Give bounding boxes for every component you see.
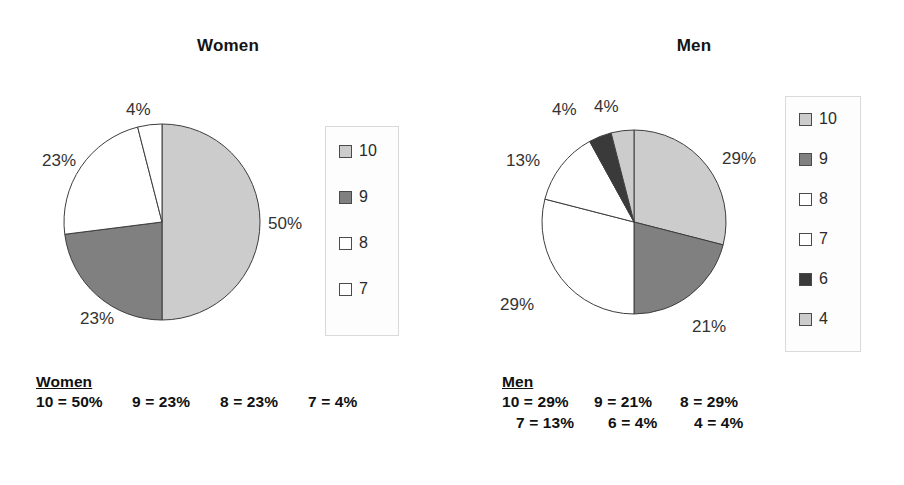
- women-legend-swatch-7: [339, 283, 352, 296]
- men-percent-label-3: 13%: [506, 152, 540, 169]
- women-percent-label-2: 23%: [42, 152, 76, 169]
- men-percent-label-0: 29%: [722, 150, 756, 167]
- women-legend-item-7[interactable]: 7: [339, 281, 398, 297]
- men-pie-chart: [540, 128, 728, 316]
- men-legend-swatch-9: [799, 153, 812, 166]
- men-percent-label-4: 4%: [552, 101, 577, 118]
- men-legend-swatch-4: [799, 313, 812, 326]
- men-legend-item-8[interactable]: 8: [799, 191, 860, 207]
- men-legend-item-7[interactable]: 7: [799, 231, 860, 247]
- men-caption-r2-entry-2: 4 = 4%: [694, 413, 780, 433]
- men-chart-title: Men: [468, 36, 904, 56]
- men-caption-r2-entry-0: 7 = 13%: [516, 413, 608, 433]
- men-legend-label-8: 8: [819, 191, 828, 207]
- men-caption: Men 10 = 29%9 = 21%8 = 29% 7 = 13%6 = 4%…: [502, 372, 780, 433]
- men-legend-item-4[interactable]: 4: [799, 311, 860, 327]
- women-percent-label-3: 4%: [126, 101, 151, 118]
- women-legend-item-10[interactable]: 10: [339, 143, 398, 159]
- men-legend-item-6[interactable]: 6: [799, 271, 860, 287]
- men-caption-r1-entry-2: 8 = 29%: [680, 392, 766, 412]
- women-percent-label-0: 50%: [268, 215, 302, 232]
- men-legend-item-9[interactable]: 9: [799, 151, 860, 167]
- men-percent-label-1: 21%: [692, 318, 726, 335]
- men-legend-label-4: 4: [819, 311, 828, 327]
- women-legend: 10987: [325, 126, 399, 336]
- men-percent-label-5: 4%: [594, 98, 619, 115]
- men-legend-label-10: 10: [819, 111, 837, 127]
- women-legend-item-8[interactable]: 8: [339, 235, 398, 251]
- men-caption-values-row-1: 10 = 29%9 = 21%8 = 29%: [502, 392, 780, 412]
- women-caption-heading: Women: [36, 372, 378, 392]
- men-percent-label-2: 29%: [500, 296, 534, 313]
- women-caption-entry-0: 10 = 50%: [36, 392, 132, 412]
- women-chart-panel: Women 50%23%23%4% 10987 Women 10 = 50%9 …: [0, 0, 452, 485]
- women-legend-swatch-8: [339, 237, 352, 250]
- men-chart-panel: Men 29%21%29%13%4%4% 1098764 Men 10 = 29…: [452, 0, 904, 485]
- men-legend-swatch-6: [799, 273, 812, 286]
- men-caption-heading: Men: [502, 372, 780, 392]
- men-caption-r1-entry-0: 10 = 29%: [502, 392, 594, 412]
- women-legend-swatch-9: [339, 191, 352, 204]
- men-legend-label-7: 7: [819, 231, 828, 247]
- women-slice-10: [162, 124, 260, 320]
- men-legend-label-9: 9: [819, 151, 828, 167]
- women-chart-title: Women: [2, 36, 454, 56]
- women-pie-chart: [62, 122, 262, 322]
- men-caption-r2-entry-1: 6 = 4%: [608, 413, 694, 433]
- men-legend-item-10[interactable]: 10: [799, 111, 860, 127]
- women-pie-svg: [62, 122, 262, 322]
- women-caption-entry-2: 8 = 23%: [220, 392, 308, 412]
- women-legend-label-7: 7: [359, 281, 368, 297]
- women-caption-values: 10 = 50%9 = 23%8 = 23%7 = 4%: [36, 392, 378, 412]
- men-legend-swatch-7: [799, 233, 812, 246]
- women-legend-label-8: 8: [359, 235, 368, 251]
- women-legend-label-9: 9: [359, 189, 368, 205]
- women-slice-9: [65, 222, 162, 320]
- women-caption: Women 10 = 50%9 = 23%8 = 23%7 = 4%: [36, 372, 378, 413]
- men-legend: 1098764: [785, 96, 861, 352]
- men-pie-svg: [540, 128, 728, 316]
- women-legend-swatch-10: [339, 145, 352, 158]
- men-caption-values-row-2: 7 = 13%6 = 4%4 = 4%: [502, 413, 780, 433]
- women-legend-label-10: 10: [359, 143, 377, 159]
- women-legend-item-9[interactable]: 9: [339, 189, 398, 205]
- men-legend-swatch-8: [799, 193, 812, 206]
- women-caption-entry-3: 7 = 4%: [308, 392, 378, 412]
- men-legend-label-6: 6: [819, 271, 828, 287]
- women-percent-label-1: 23%: [80, 310, 114, 327]
- men-legend-swatch-10: [799, 113, 812, 126]
- women-caption-entry-1: 9 = 23%: [132, 392, 220, 412]
- men-caption-r1-entry-1: 9 = 21%: [594, 392, 680, 412]
